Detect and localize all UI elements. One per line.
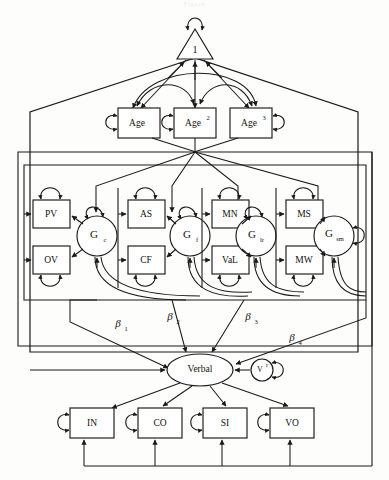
indicator-in-label: IN [87,418,97,428]
edge-verbal-to-in [112,383,180,408]
beta-2-path [172,300,186,352]
factor-gsm-disturbance-loop [353,228,364,244]
verbal-residual-label: V [257,365,263,374]
beta-3-label: β [244,310,251,322]
factor-gf-label: G [183,228,191,240]
beta-2-subscript: 2 [176,318,179,325]
age-box-label: Age [129,118,145,128]
age2-variance-loop [162,115,173,129]
indicator-cf-error-loop [136,275,155,286]
factor-glr-circle [236,216,276,256]
age-squared-exponent: 2 [206,114,209,121]
verbal-residual-loop [272,363,283,378]
verbal-factor-label: Verbal [188,364,213,374]
factor-glr-label: G [248,228,256,240]
age-cubed-exponent: 3 [262,114,265,121]
beta-4-path [236,300,366,364]
beta-2-label: β [166,310,173,322]
edge-gc-to-pv [72,216,83,224]
factor-gc-label: G [90,228,98,240]
factor-gsm-subscript: sm [336,235,344,242]
edge-age3-down [194,138,238,152]
factor-gsm-label: G [325,227,333,239]
indicator-in-error-loop [58,415,69,431]
age-variance-loop [106,115,117,129]
age-squared-box-label: Age [185,118,201,128]
indicator-vo-label: VO [285,418,299,428]
indicator-as-label: AS [140,209,152,219]
indicator-mw-error-loop [294,275,313,286]
factor-gsm-circle [314,216,354,256]
indicator-mw-label: MW [295,255,312,265]
beta-4-label: β [288,331,295,343]
age3-variance-loop [273,115,284,129]
beta-1-subscript: 1 [124,325,127,332]
indicator-val-error-loop [220,275,239,286]
beta-1-label: β [114,317,121,329]
edge-gf-to-as [167,216,176,224]
indicator-ms-error-loop [294,188,313,199]
beta-1-path [70,300,168,368]
curve-gsm-feedback-2 [338,257,366,292]
indicator-si-error-loop [191,415,202,431]
edge-age-down [152,138,196,152]
indicator-pv-error-loop [41,188,60,199]
edge-gf-to-cf [167,249,176,257]
unit-constant-label: 1 [193,44,198,55]
sem-path-diagram: 1 Age Age 2 Age 3 [0,0,389,480]
indicator-cf-label: CF [140,255,152,265]
indicator-ms-label: MS [297,209,311,219]
factor-gc-subscript: c [104,236,107,243]
edge-verbal-to-si [210,386,226,406]
age-cubed-box-label: Age [241,118,257,128]
beta-3-subscript: 3 [254,318,257,325]
edge-gc-to-ov [72,249,83,257]
curve-gsm-feedback [332,257,366,296]
indicator-vo-error-loop [258,415,269,431]
indicator-as-error-loop [136,188,155,199]
indicator-co-error-loop [126,415,137,431]
indicator-mn-label: MN [222,209,237,219]
indicator-ov-error-loop [41,275,60,286]
indicator-mn-error-loop [220,188,239,199]
edge-verbal-to-co [163,386,192,406]
indicator-si-label: SI [221,418,229,428]
edge-verbal-to-vo [222,383,288,406]
indicator-co-label: CO [153,418,166,428]
edge-agejunction-to-gf [172,152,195,212]
beta-3-path [212,300,244,352]
indicator-pv-label: PV [45,209,57,219]
figure-canvas: Figure 1 [0,0,389,480]
indicator-ov-label: OV [44,255,58,265]
indicator-val-label: VaL [222,255,238,265]
